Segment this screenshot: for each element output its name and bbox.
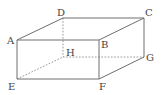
vertex-label-G: G [146,52,154,63]
edge-EH [17,57,63,79]
vertex-label-A: A [6,35,15,46]
vertex-label-H: H [66,47,75,58]
cuboid-diagram: A B C D E F G H [0,0,162,95]
edge-BC [99,18,144,40]
vertex-label-E: E [8,81,15,92]
edge-DA [17,18,63,40]
vertex-label-F: F [99,81,106,92]
edge-FG [99,57,144,79]
vertex-label-B: B [101,39,108,50]
vertex-label-C: C [145,7,153,18]
vertex-label-D: D [57,7,65,18]
